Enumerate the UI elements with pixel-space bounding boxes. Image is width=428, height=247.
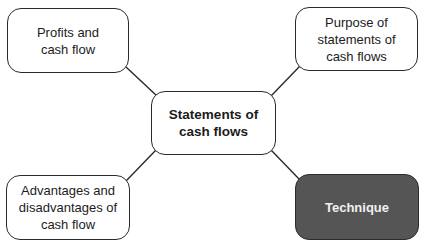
node-advantages-and-disadvantages: Advantages and disadvantages of cash flo… [6,175,130,240]
edge-center-to-advantages [126,150,156,181]
edge-center-to-technique [271,150,300,180]
node-technique: Technique [295,174,419,240]
node-label: Profits and cash flow [29,24,107,58]
node-label: Advantages and disadvantages of cash flo… [15,182,121,233]
edge-center-to-profits [126,67,157,96]
node-label: Technique [325,199,389,216]
node-statements-of-cash-flows: Statements of cash flows [151,91,276,155]
node-profits-and-cash-flow: Profits and cash flow [7,8,129,73]
center-label: Statements of cash flows [160,106,267,140]
edge-center-to-purpose [271,66,300,96]
node-label: Purpose of statements of cash flows [304,14,409,65]
node-purpose-of-statements: Purpose of statements of cash flows [295,7,418,71]
